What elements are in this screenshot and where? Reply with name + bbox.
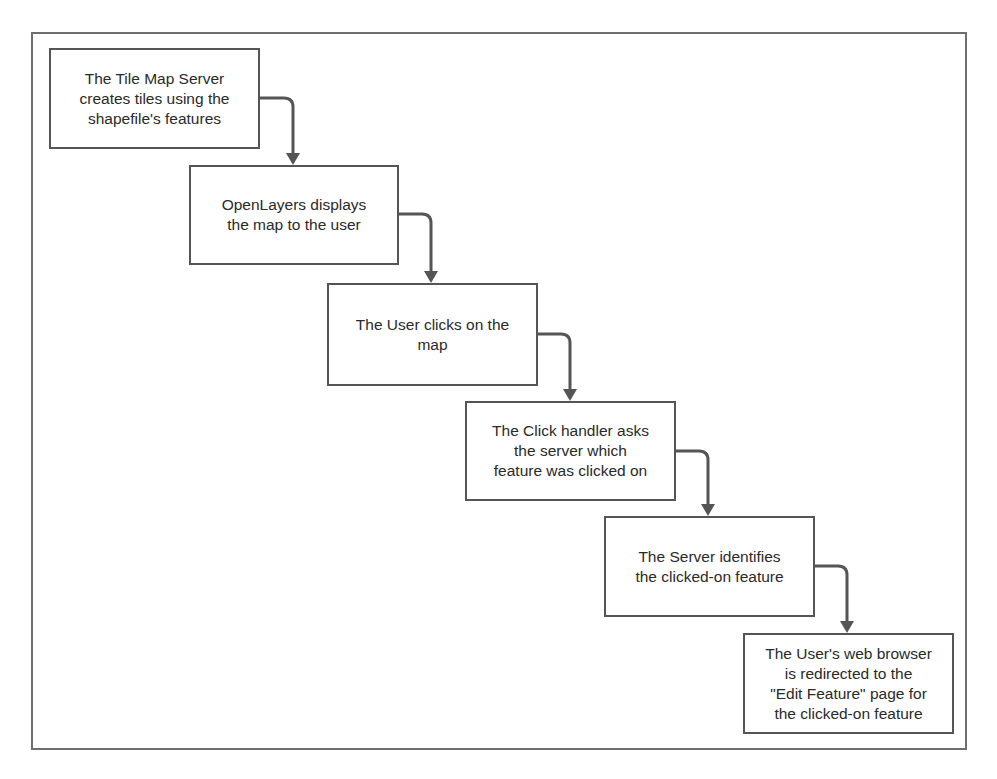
step-5-box: The Server identifies the clicked-on fea… (604, 516, 815, 617)
step-5-label: The Server identifies the clicked-on fea… (635, 547, 783, 587)
step-2-box: OpenLayers displays the map to the user (189, 165, 399, 265)
step-4-label: The Click handler asks the server which … (492, 421, 649, 481)
step-2-label: OpenLayers displays the map to the user (222, 195, 367, 235)
step-6-label: The User's web browser is redirected to … (765, 644, 932, 724)
step-3-label: The User clicks on the map (356, 315, 509, 355)
step-6-box: The User's web browser is redirected to … (743, 633, 954, 734)
step-1-box: The Tile Map Server creates tiles using … (49, 48, 260, 149)
step-3-box: The User clicks on the map (327, 283, 538, 386)
step-4-box: The Click handler asks the server which … (465, 401, 676, 501)
step-1-label: The Tile Map Server creates tiles using … (80, 69, 230, 129)
